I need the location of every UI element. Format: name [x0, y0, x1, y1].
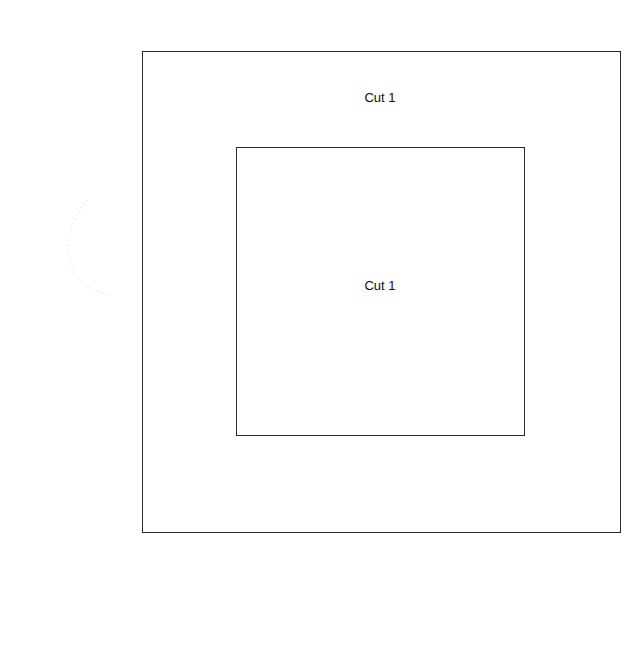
inner-cut-label: Cut 1	[364, 278, 395, 293]
outer-cut-label: Cut 1	[364, 90, 395, 105]
faint-bleedthrough-arc	[58, 195, 148, 305]
